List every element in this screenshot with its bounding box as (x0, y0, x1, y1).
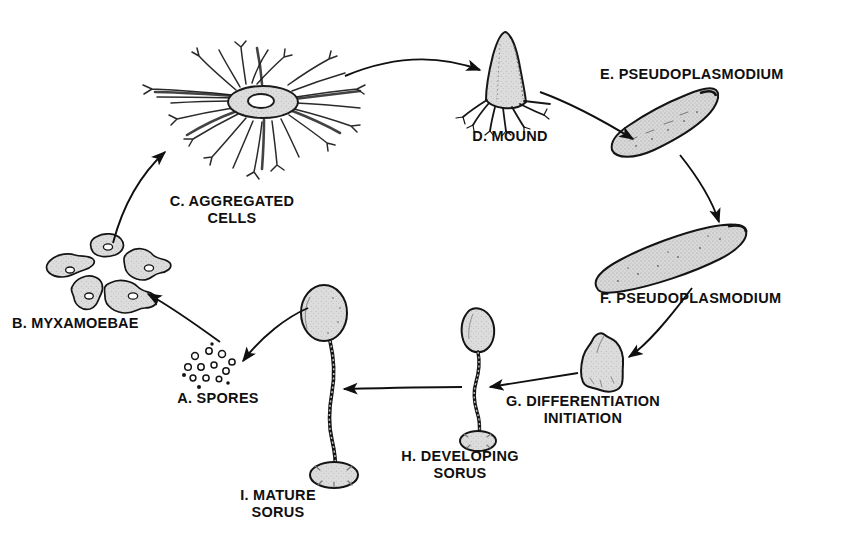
stage-label-f-pseudoplasmodium: F. PSEUDOPLASMODIUM (600, 290, 858, 307)
life-cycle-diagram: A. SPORES B. MYXAMOEBAE C. AGGREGATED CE… (0, 0, 858, 545)
arrow-aggregated-to-mound (345, 59, 480, 76)
slug-migrating-icon (596, 225, 747, 293)
stage-label-e-pseudoplasmodium: E. PSEUDOPLASMODIUM (600, 66, 858, 83)
arrow-gdiff-to-hdev (490, 373, 578, 387)
mound-icon (456, 32, 550, 136)
culminant-blob-icon (581, 333, 623, 391)
slug-tilted-icon (612, 88, 719, 157)
aggregation-star-icon (143, 41, 365, 179)
arrow-epseudo-to-fpseudo (680, 155, 719, 222)
arrow-mature-to-spores (243, 308, 308, 361)
spores-cluster-icon (182, 342, 235, 389)
amoeba-cells-icon (47, 234, 171, 313)
stage-label-g-differentiation-initiation: G. DIFFERENTIATION INITIATION (478, 393, 688, 427)
stage-label-h-developing-sorus: H. DEVELOPING SORUS (365, 448, 555, 482)
stage-label-d-mound: D. MOUND (430, 128, 590, 145)
stage-label-i-mature-sorus: I. MATURE SORUS (198, 487, 358, 521)
arrow-hdev-to-imature (344, 387, 462, 389)
mature-sorocarp-icon (301, 285, 358, 488)
stage-label-b-myxamoebae: B. MYXAMOEBAE (12, 315, 172, 332)
stage-label-a-spores: A. SPORES (148, 390, 288, 407)
developing-sorocarp-icon (460, 308, 496, 451)
stage-label-c-aggregated-cells: C. AGGREGATED CELLS (137, 193, 327, 227)
